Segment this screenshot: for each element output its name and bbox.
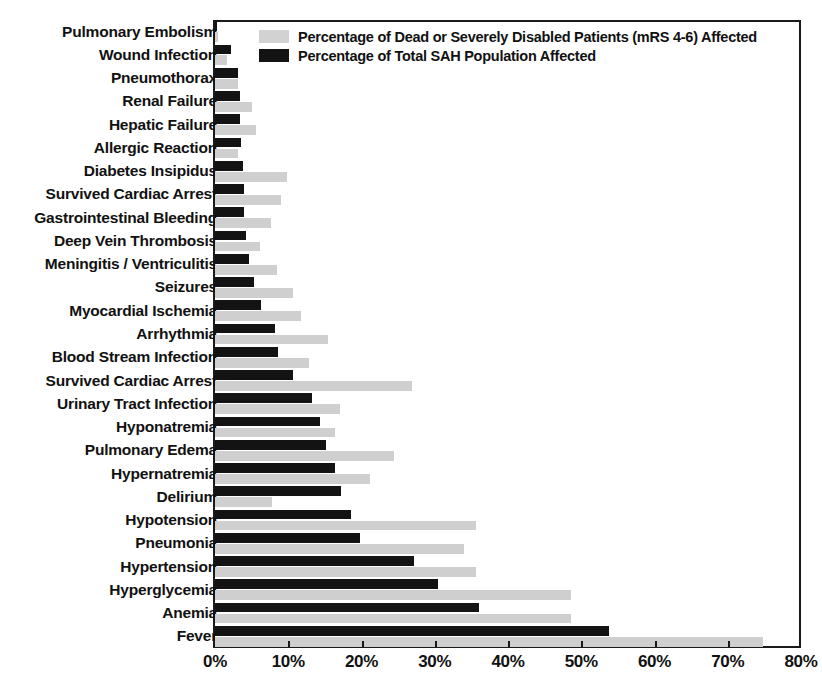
row-bars — [215, 253, 801, 276]
category-label: Diabetes Insipidus — [84, 163, 217, 179]
row-bars — [215, 462, 801, 485]
row-bars — [215, 415, 801, 438]
bar-dead-or-severely-disabled — [215, 172, 287, 182]
chart-row: Hepatic Failure — [0, 113, 822, 136]
category-label: Allergic Reaction — [94, 140, 217, 156]
chart-row: Anemia — [0, 601, 822, 624]
bar-total-sah-population — [215, 533, 360, 543]
bar-total-sah-population — [215, 393, 312, 403]
x-axis-tick-label: 40% — [491, 652, 524, 672]
category-label: Wound Infection — [99, 47, 217, 63]
bar-total-sah-population — [215, 579, 438, 589]
category-label: Anemia — [162, 605, 217, 621]
bar-dead-or-severely-disabled — [215, 614, 571, 624]
bar-dead-or-severely-disabled — [215, 358, 309, 368]
row-bars — [215, 369, 801, 392]
bar-dead-or-severely-disabled — [215, 242, 260, 252]
chart-row: Diabetes Insipidus — [0, 160, 822, 183]
chart-row: Survived Cardiac Arrest — [0, 183, 822, 206]
bar-total-sah-population — [215, 184, 244, 194]
row-bars — [215, 532, 801, 555]
chart-row: Hypernatremia — [0, 462, 822, 485]
chart-row: Hyponatremia — [0, 415, 822, 438]
bar-total-sah-population — [215, 626, 609, 636]
x-axis-tick — [435, 641, 437, 648]
category-label: Survived Cardiac Arrest — [46, 373, 217, 389]
x-axis-tick — [655, 641, 657, 648]
category-label: Renal Failure — [122, 94, 217, 110]
bar-total-sah-population — [215, 463, 335, 473]
row-bars — [215, 67, 801, 90]
category-label: Fever — [177, 629, 217, 645]
category-label: Myocardial Ischemia — [69, 303, 217, 319]
bar-total-sah-population — [215, 231, 246, 241]
chart-row: Pneumothorax — [0, 67, 822, 90]
category-label: Hyponatremia — [116, 419, 217, 435]
chart-row: Renal Failure — [0, 90, 822, 113]
chart-row: Deep Vein Thrombosis — [0, 229, 822, 252]
bar-total-sah-population — [215, 300, 261, 310]
legend-label: Percentage of Dead or Severely Disabled … — [298, 29, 757, 45]
category-label: Hyperglycemia — [109, 582, 217, 598]
row-bars — [215, 113, 801, 136]
category-label: Hypernatremia — [111, 466, 217, 482]
bar-total-sah-population — [215, 254, 249, 264]
chart-row: Hypertension — [0, 555, 822, 578]
chart-row: Hypotension — [0, 508, 822, 531]
x-axis-tick — [508, 641, 510, 648]
category-label: Pneumothorax — [111, 70, 217, 86]
bar-total-sah-population — [215, 556, 414, 566]
x-axis-ticks — [213, 641, 801, 649]
chart-row: Arrhythmia — [0, 322, 822, 345]
bar-total-sah-population — [215, 370, 293, 380]
bar-dead-or-severely-disabled — [215, 474, 370, 484]
row-bars — [215, 439, 801, 462]
row-bars — [215, 160, 801, 183]
row-bars — [215, 392, 801, 415]
chart-row: Delirium — [0, 485, 822, 508]
category-label: Pulmonary Embolism — [62, 24, 217, 40]
legend-swatch-gray — [259, 30, 289, 43]
category-label: Hypertension — [120, 559, 217, 575]
legend-label: Percentage of Total SAH Population Affec… — [298, 48, 596, 64]
row-bars — [215, 136, 801, 159]
chart-row: Blood Stream Infection — [0, 346, 822, 369]
row-bars — [215, 276, 801, 299]
bar-dead-or-severely-disabled — [215, 265, 277, 275]
x-axis-tick — [581, 641, 583, 648]
bar-total-sah-population — [215, 510, 351, 520]
bar-dead-or-severely-disabled — [215, 125, 256, 135]
legend-item: Percentage of Total SAH Population Affec… — [259, 46, 799, 65]
row-bars — [215, 183, 801, 206]
bar-dead-or-severely-disabled — [215, 218, 271, 228]
bar-total-sah-population — [215, 68, 238, 78]
x-axis-tick-label: 20% — [345, 652, 378, 672]
bar-dead-or-severely-disabled — [215, 428, 335, 438]
category-label: Hypotension — [125, 512, 217, 528]
chart-row: Pneumonia — [0, 532, 822, 555]
legend-item: Percentage of Dead or Severely Disabled … — [259, 27, 799, 46]
bar-total-sah-population — [215, 138, 241, 148]
bar-dead-or-severely-disabled — [215, 79, 238, 89]
category-label: Hepatic Failure — [109, 117, 217, 133]
category-label: Urinary Tract Infection — [57, 396, 217, 412]
chart-row: Meningitis / Ventriculitis — [0, 253, 822, 276]
bar-total-sah-population — [215, 417, 320, 427]
x-axis-tick-label: 10% — [272, 652, 305, 672]
category-label: Arrhythmia — [136, 326, 217, 342]
chart-row: Survived Cardiac Arrest — [0, 369, 822, 392]
bar-dead-or-severely-disabled — [215, 311, 301, 321]
chart-row: Gastrointestinal Bleeding — [0, 206, 822, 229]
row-bars — [215, 555, 801, 578]
bar-dead-or-severely-disabled — [215, 451, 394, 461]
bar-dead-or-severely-disabled — [215, 149, 238, 159]
chart-row: Urinary Tract Infection — [0, 392, 822, 415]
x-axis-tick-label: 70% — [711, 652, 744, 672]
x-axis-tick — [728, 641, 730, 648]
chart-row: Myocardial Ischemia — [0, 299, 822, 322]
bar-dead-or-severely-disabled — [215, 567, 476, 577]
chart-row: Seizures — [0, 276, 822, 299]
bar-dead-or-severely-disabled — [215, 288, 293, 298]
category-label: Meningitis / Ventriculitis — [45, 256, 217, 272]
category-label: Blood Stream Infection — [52, 350, 217, 366]
